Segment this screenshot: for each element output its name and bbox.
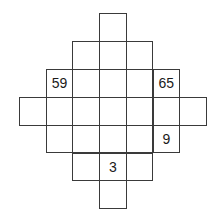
empty-cell[interactable] [99, 41, 127, 70]
empty-cell[interactable] [46, 97, 74, 126]
empty-cell[interactable] [126, 97, 154, 126]
empty-cell[interactable] [19, 97, 47, 126]
clue-cell[interactable]: 65 [153, 69, 181, 98]
empty-cell[interactable] [72, 41, 100, 70]
empty-cell[interactable] [126, 41, 154, 70]
empty-cell[interactable] [99, 69, 127, 98]
clue-cell[interactable]: 59 [46, 69, 74, 98]
clue-cell[interactable]: 3 [99, 153, 127, 182]
empty-cell[interactable] [99, 125, 127, 154]
empty-cell[interactable] [99, 180, 127, 209]
empty-cell[interactable] [72, 97, 100, 126]
empty-cell[interactable] [126, 153, 154, 182]
empty-cell[interactable] [126, 125, 154, 154]
empty-cell[interactable] [72, 125, 100, 154]
empty-cell[interactable] [179, 97, 207, 126]
empty-cell[interactable] [126, 69, 154, 98]
empty-cell[interactable] [72, 69, 100, 98]
clue-cell[interactable]: 9 [153, 125, 181, 154]
diamond-number-grid: 596593 [0, 0, 215, 214]
empty-cell[interactable] [99, 97, 127, 126]
empty-cell[interactable] [153, 97, 181, 126]
empty-cell[interactable] [99, 13, 127, 42]
empty-cell[interactable] [72, 153, 100, 182]
empty-cell[interactable] [46, 125, 74, 154]
